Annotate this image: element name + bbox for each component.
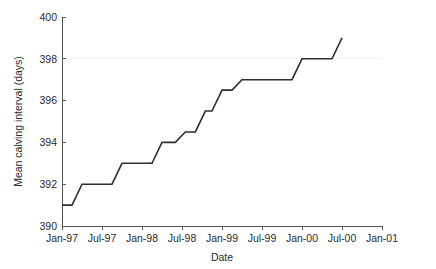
chart-svg: 390 392 394 396 398 400 Jan-97 Jul-97 Ja… — [0, 0, 436, 269]
x-tick-label-6: Jan-00 — [286, 232, 318, 244]
x-axis-title: Date — [211, 251, 233, 263]
chart-figure: 390 392 394 396 398 400 Jan-97 Jul-97 Ja… — [0, 0, 436, 269]
x-tick-label-7: Jul-00 — [328, 232, 357, 244]
x-tick-label-0: Jan-97 — [46, 232, 78, 244]
y-tick-label-0: 390 — [39, 220, 57, 232]
x-tick-label-4: Jan-99 — [206, 232, 238, 244]
y-tick-label-5: 400 — [39, 11, 57, 23]
x-axis-tick-labels: Jan-97 Jul-97 Jan-98 Jul-98 Jan-99 Jul-9… — [46, 232, 398, 244]
chart-background — [0, 0, 436, 269]
y-tick-label-4: 398 — [39, 53, 57, 65]
y-tick-label-3: 396 — [39, 94, 57, 106]
y-tick-label-2: 394 — [39, 136, 57, 148]
x-tick-label-5: Jul-99 — [248, 232, 277, 244]
x-tick-label-3: Jul-98 — [168, 232, 197, 244]
x-tick-label-8: Jan-01 — [366, 232, 398, 244]
y-axis-title: Mean calving interval (days) — [12, 56, 24, 187]
y-tick-label-1: 392 — [39, 178, 57, 190]
x-tick-label-2: Jan-98 — [126, 232, 158, 244]
x-tick-label-1: Jul-97 — [88, 232, 117, 244]
